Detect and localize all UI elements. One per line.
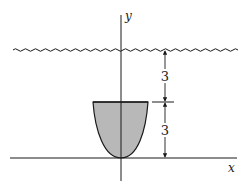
water-surface-line bbox=[13, 49, 238, 52]
dimension-label-upper: 3 bbox=[161, 69, 169, 84]
x-axis-label: x bbox=[228, 161, 235, 175]
submerged-plate-diagram: 3 3 y x bbox=[0, 0, 248, 188]
dimension-label-lower: 3 bbox=[161, 123, 169, 138]
y-axis-label: y bbox=[124, 9, 132, 23]
